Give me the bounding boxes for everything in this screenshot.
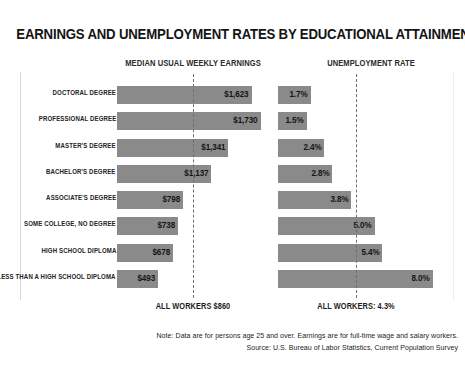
chart-row: BACHELOR'S DEGREE$1,1372.8%: [0, 163, 465, 189]
earnings-reference-line: [193, 74, 194, 298]
unemployment-bar: 2.8%: [278, 165, 332, 183]
category-label: HIGH SCHOOL DIPLOMA: [41, 247, 116, 254]
chart-rows: DOCTORAL DEGREE$1,6231.7%PROFESSIONAL DE…: [0, 84, 465, 294]
earnings-bar: $1,623: [117, 86, 252, 104]
unemployment-bar: 3.8%: [278, 191, 351, 209]
earnings-bar: $738: [117, 217, 178, 235]
earnings-reference-label: ALL WORKERS $860: [121, 302, 265, 311]
category-label: PROFESSIONAL DEGREE: [38, 115, 116, 122]
chart-row: PROFESSIONAL DEGREE$1,7301.5%: [0, 110, 465, 136]
chart-row: DOCTORAL DEGREE$1,6231.7%: [0, 84, 465, 110]
earnings-value-label: $738: [158, 220, 176, 230]
chart-notes: Note: Data are for persons age 25 and ov…: [23, 330, 458, 353]
unemployment-value-label: 3.8%: [330, 194, 348, 204]
unemployment-value-label: 2.8%: [311, 168, 329, 178]
unemployment-value-label: 1.7%: [290, 89, 308, 99]
earnings-value-label: $1,730: [233, 115, 257, 125]
earnings-value-label: $1,623: [225, 89, 249, 99]
chart-row: MASTER'S DEGREE$1,3412.4%: [0, 137, 465, 163]
chart-title: EARNINGS AND UNEMPLOYMENT RATES BY EDUCA…: [16, 26, 448, 42]
earnings-value-label: $798: [163, 194, 181, 204]
earnings-bar: $1,730: [117, 112, 261, 130]
unemployment-value-label: 8.0%: [412, 273, 430, 283]
unemployment-bar: 2.4%: [278, 139, 324, 157]
category-label: ASSOCIATE'S DEGREE: [46, 194, 116, 201]
unemployment-bar: 5.0%: [278, 217, 375, 235]
earnings-bar: $678: [117, 244, 173, 262]
earnings-bar: $493: [117, 270, 158, 288]
unemployment-bar: 1.5%: [278, 112, 307, 130]
category-label: BACHELOR'S DEGREE: [46, 168, 116, 175]
earnings-value-label: $1,341: [201, 142, 225, 152]
unemployment-column-header: UNEMPLOYMENT RATE: [295, 58, 448, 68]
category-label: MASTER'S DEGREE: [56, 142, 116, 149]
earnings-bar: $798: [117, 191, 183, 209]
earnings-column-header: MEDIAN USUAL WEEKLY EARNINGS: [117, 58, 270, 68]
category-label: SOME COLLEGE, NO DEGREE: [24, 220, 116, 227]
source-line: Source: U.S. Bureau of Labor Statistics,…: [23, 342, 458, 354]
earnings-value-label: $493: [137, 273, 155, 283]
chart-row: ASSOCIATE'S DEGREE$7983.8%: [0, 189, 465, 215]
earnings-value-label: $678: [153, 247, 171, 257]
earnings-value-label: $1,137: [184, 168, 208, 178]
earnings-bar: $1,341: [117, 139, 228, 157]
category-label: LESS THAN A HIGH SCHOOL DIPLOMA: [0, 273, 116, 280]
category-label: DOCTORAL DEGREE: [52, 89, 116, 96]
unemployment-value-label: 2.4%: [303, 142, 321, 152]
note-line: Note: Data are for persons age 25 and ov…: [23, 330, 458, 342]
unemployment-reference-label: ALL WORKERS: 4.3%: [284, 302, 428, 311]
chart-row: HIGH SCHOOL DIPLOMA$6785.4%: [0, 242, 465, 268]
unemployment-value-label: 1.5%: [286, 115, 304, 125]
unemployment-bar: 1.7%: [278, 86, 311, 104]
chart-page: EARNINGS AND UNEMPLOYMENT RATES BY EDUCA…: [0, 0, 465, 377]
unemployment-reference-line: [356, 74, 357, 298]
unemployment-value-label: 5.4%: [361, 247, 379, 257]
unemployment-bar: 5.4%: [278, 244, 382, 262]
chart-row: LESS THAN A HIGH SCHOOL DIPLOMA$4938.0%: [0, 268, 465, 294]
chart-row: SOME COLLEGE, NO DEGREE$7385.0%: [0, 215, 465, 241]
earnings-bar: $1,137: [117, 165, 211, 183]
